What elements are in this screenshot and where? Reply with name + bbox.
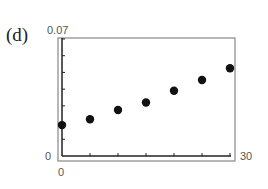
axis-ticks [62,39,230,156]
scatter-plot [0,0,268,189]
data-point [114,106,122,114]
data-points [58,64,234,129]
data-point [86,115,94,123]
data-point [226,64,234,72]
data-point [198,76,206,84]
data-point [142,98,150,106]
data-point [170,87,178,95]
data-point [58,121,66,129]
